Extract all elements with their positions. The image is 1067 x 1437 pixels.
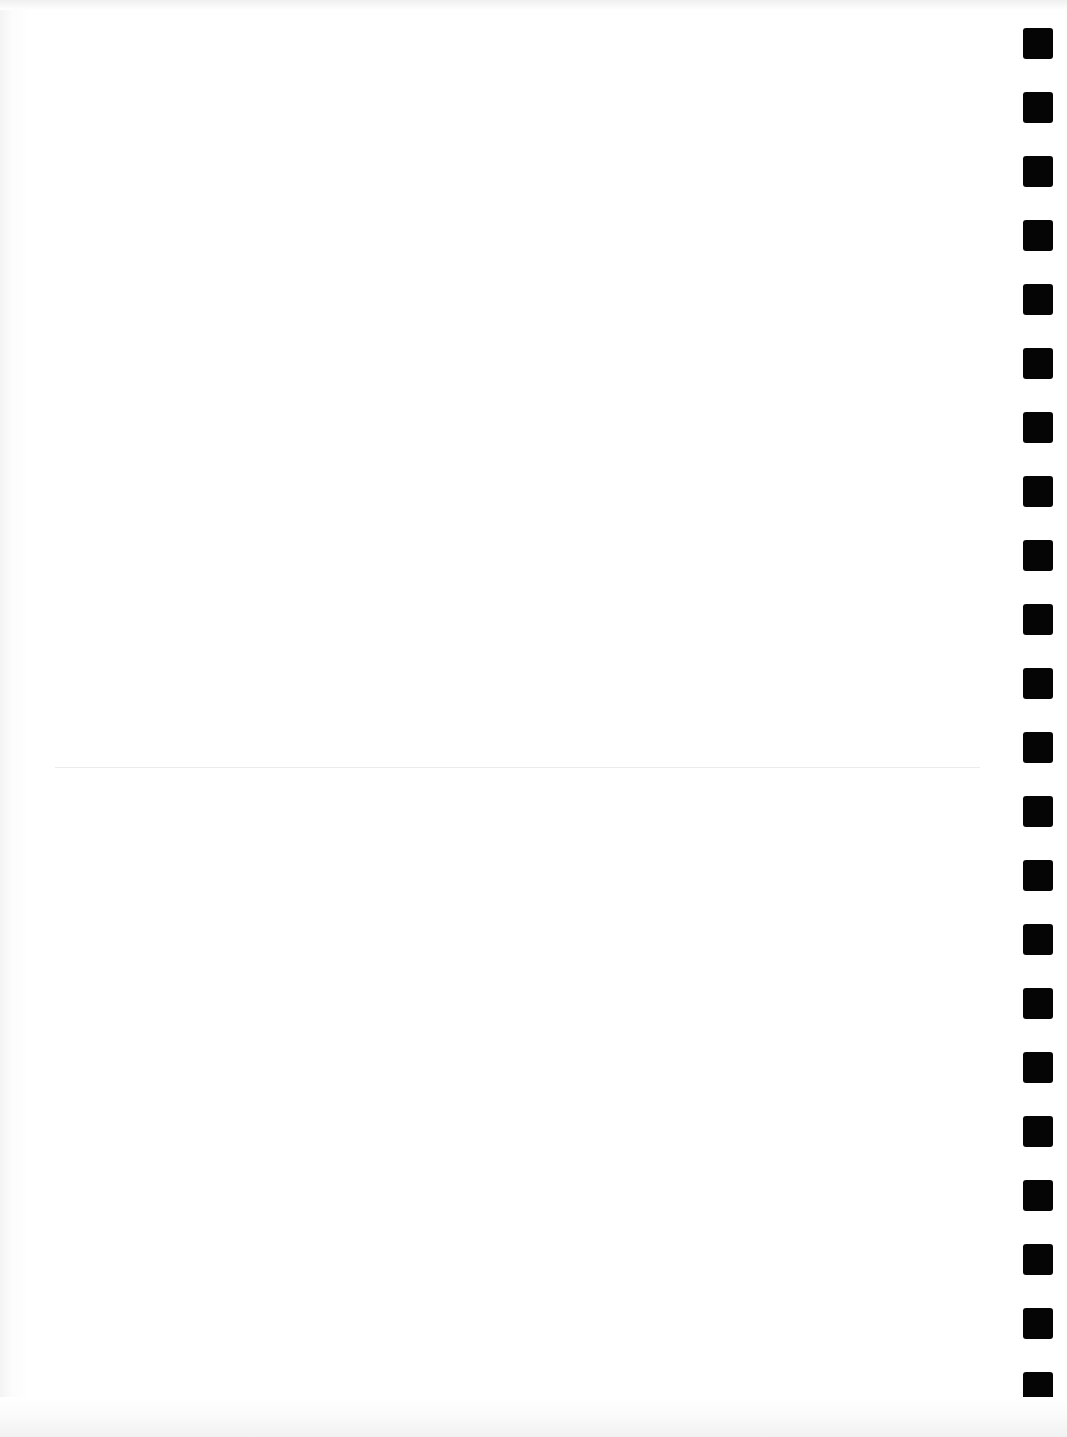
registration-mark-square (1023, 28, 1053, 59)
registration-mark-square (1023, 92, 1053, 123)
registration-mark-square (1023, 1308, 1053, 1339)
registration-mark-square (1023, 732, 1053, 763)
registration-mark-square (1023, 860, 1053, 891)
fold-line (55, 767, 980, 768)
registration-mark-square (1023, 220, 1053, 251)
registration-mark-square (1023, 1244, 1053, 1275)
registration-mark-square (1023, 156, 1053, 187)
registration-mark-square (1023, 412, 1053, 443)
registration-mark-square (1023, 284, 1053, 315)
registration-mark-square (1023, 540, 1053, 571)
registration-marks-column (1023, 0, 1054, 1437)
registration-mark-square (1023, 1180, 1053, 1211)
registration-mark-square (1023, 348, 1053, 379)
registration-mark-square (1023, 796, 1053, 827)
registration-mark-square (1023, 668, 1053, 699)
registration-mark-square (1023, 476, 1053, 507)
registration-mark-square (1023, 988, 1053, 1019)
registration-mark-square (1023, 604, 1053, 635)
registration-mark-square (1023, 1116, 1053, 1147)
page-top-edge (0, 0, 1067, 10)
page-bottom-edge (0, 1397, 1067, 1437)
blank-page (0, 0, 1067, 1437)
registration-mark-square (1023, 1052, 1053, 1083)
registration-mark-square (1023, 924, 1053, 955)
